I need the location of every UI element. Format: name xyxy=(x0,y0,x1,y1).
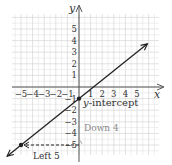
y-tick-label: 1 xyxy=(72,70,77,80)
coordinate-plane-chart: −5−4−3−2−112345−5−4−3−2−112345 y x y-int… xyxy=(0,0,172,165)
y-tick-label: 5 xyxy=(72,24,77,34)
y-tick-label: −4 xyxy=(64,128,77,138)
down-4-label: Down 4 xyxy=(84,123,119,133)
y-tick-label: −3 xyxy=(64,117,77,127)
y-intercept-point xyxy=(77,96,81,100)
y-tick-label: 3 xyxy=(72,47,77,57)
annotations: y x y-intercept Down 4 Left 5 xyxy=(33,2,161,161)
y-intercept-text: -intercept xyxy=(89,97,139,108)
y-axis-label: y xyxy=(68,2,76,15)
y-tick-label: −2 xyxy=(64,105,77,115)
axes xyxy=(12,5,164,162)
data-point xyxy=(19,143,23,147)
y-tick-label: 2 xyxy=(72,59,77,69)
y-tick-label: 4 xyxy=(72,36,77,46)
left-5-label: Left 5 xyxy=(33,151,60,161)
y-intercept-label: y-intercept xyxy=(82,97,138,108)
chart-svg: −5−4−3−2−112345−5−4−3−2−112345 y x y-int… xyxy=(0,0,172,165)
x-axis-label: x xyxy=(154,88,161,101)
down-arrow-icon xyxy=(80,140,82,143)
